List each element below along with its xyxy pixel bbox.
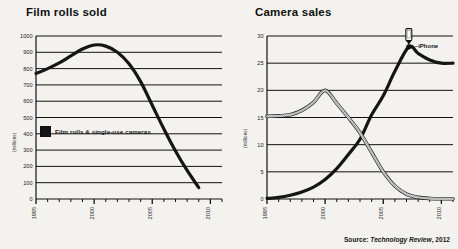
legend-film-rolls: Film rolls & single-use cameras xyxy=(40,126,151,140)
legend-item: Film rolls & single-use cameras xyxy=(40,126,151,137)
svg-text:5: 5 xyxy=(260,169,263,175)
svg-text:1000: 1000 xyxy=(20,33,32,39)
svg-text:500: 500 xyxy=(23,115,32,121)
svg-text:2005: 2005 xyxy=(147,207,153,219)
source-prefix: Source: xyxy=(344,236,370,243)
panel-camera-sales: Camera sales (millions) 0510152025301995… xyxy=(229,0,458,249)
svg-text:100: 100 xyxy=(23,180,32,186)
svg-text:900: 900 xyxy=(23,49,32,55)
svg-text:2000: 2000 xyxy=(89,207,95,219)
chart-svg-camera-sales: 0510152025301995200020052010–iPhone xyxy=(229,0,458,249)
svg-text:2000: 2000 xyxy=(320,207,326,219)
svg-text:1995: 1995 xyxy=(262,207,268,219)
svg-text:0: 0 xyxy=(260,196,263,202)
source-year: , 2012 xyxy=(432,236,450,243)
svg-text:20: 20 xyxy=(257,87,263,93)
svg-text:2010: 2010 xyxy=(205,207,211,219)
source-caption: Source: Technology Review, 2012 xyxy=(344,236,450,243)
svg-text:800: 800 xyxy=(23,66,32,72)
svg-text:600: 600 xyxy=(23,98,32,104)
legend-item-label: Film rolls & single-use cameras xyxy=(55,128,151,135)
svg-text:0: 0 xyxy=(29,196,32,202)
plot-area-camera-sales: 0510152025301995200020052010–iPhone xyxy=(229,0,458,249)
annotation-dot-marker xyxy=(406,44,411,49)
panel-film-rolls: Film rolls sold (millions) 0100200300400… xyxy=(0,0,229,249)
source-publication: Technology Review xyxy=(370,236,431,243)
svg-text:1995: 1995 xyxy=(31,207,37,219)
svg-text:400: 400 xyxy=(23,131,32,137)
svg-text:15: 15 xyxy=(257,115,263,121)
svg-text:25: 25 xyxy=(257,60,263,66)
plot-area-film-rolls: 0100200300400500600700800900100019952000… xyxy=(0,0,229,249)
svg-text:30: 30 xyxy=(257,33,263,39)
legend-swatch-icon xyxy=(40,126,51,137)
chart-svg-film-rolls: 0100200300400500600700800900100019952000… xyxy=(0,0,229,249)
svg-text:200: 200 xyxy=(23,163,32,169)
svg-text:700: 700 xyxy=(23,82,32,88)
infographic-figure: Film rolls sold (millions) 0100200300400… xyxy=(0,0,458,249)
svg-text:10: 10 xyxy=(257,142,263,148)
svg-text:300: 300 xyxy=(23,147,32,153)
svg-text:2005: 2005 xyxy=(378,207,384,219)
annotation-label: –iPhone xyxy=(415,43,439,49)
svg-text:2010: 2010 xyxy=(436,207,442,219)
